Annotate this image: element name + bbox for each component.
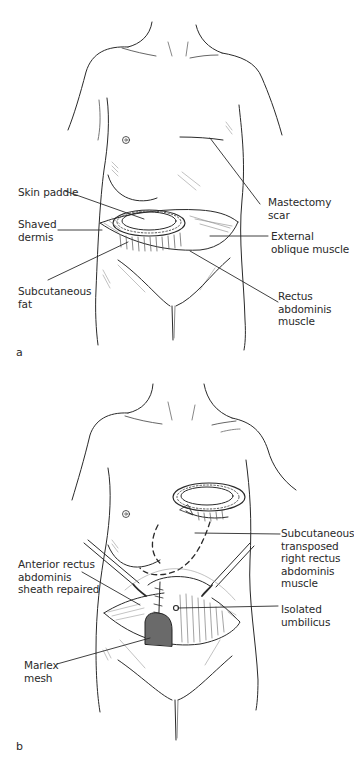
label-anterior-rectus-sheath-repaired: Anterior rectus abdominis sheath repaire…: [18, 558, 99, 596]
label-marlex-mesh: Marlex mesh: [24, 659, 59, 684]
panel-letter-b: b: [16, 740, 23, 753]
panel-b-torso: [72, 384, 296, 740]
label-subcutaneous-transposed-rectus: Subcutaneous transposed right rectus abd…: [281, 527, 354, 590]
label-rectus-abdominis-muscle: Rectus abdominis muscle: [278, 290, 331, 328]
label-skin-paddle: Skin paddle: [18, 186, 78, 199]
label-external-oblique-muscle: External oblique muscle: [271, 230, 349, 255]
label-subcutaneous-fat: Subcutaneous fat: [18, 285, 91, 310]
panel-letter-a: a: [16, 346, 23, 359]
label-mastectomy-scar: Mastectomy scar: [268, 196, 331, 221]
panel-a-torso: [68, 22, 282, 350]
label-shaved-dermis: Shaved dermis: [18, 218, 57, 243]
label-isolated-umbilicus: Isolated umbilicus: [281, 603, 330, 628]
